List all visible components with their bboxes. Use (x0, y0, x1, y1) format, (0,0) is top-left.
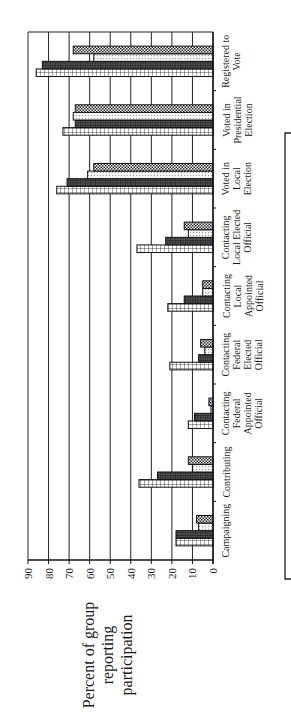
axis-title-line: participation (118, 615, 136, 696)
tick-label: 0 (207, 568, 219, 574)
bar-light-grid (137, 245, 213, 253)
bar-checker (201, 339, 213, 347)
tick-label: 20 (166, 568, 178, 580)
rotated-bar-chart: 0102030405060708090 CampaigningContribut… (0, 0, 291, 716)
category-label: Registered to (221, 35, 232, 88)
value-axis-title: Percent of groupreportingparticipation (80, 602, 136, 709)
bar-dotted (73, 112, 213, 120)
category-label: Campaigning (221, 504, 232, 558)
tick-label: 40 (125, 568, 137, 580)
legend-box (285, 133, 291, 579)
category-label: Appointed (243, 275, 254, 317)
bar-checker (73, 46, 213, 54)
category-label: Voted in (221, 162, 232, 195)
tick-label: 30 (145, 568, 157, 580)
bar-light-grid (170, 362, 213, 370)
bar-light-grid (63, 128, 213, 136)
category-label: Official (254, 398, 265, 429)
tick-label: 60 (84, 568, 96, 580)
bar-series (36, 46, 213, 546)
tick-label: 80 (43, 568, 55, 580)
category-label: Election (243, 162, 254, 195)
category-label: Contacting (221, 391, 232, 435)
tick-label: 90 (22, 568, 34, 580)
category-label: Official (254, 280, 265, 311)
bar-checker (197, 515, 213, 523)
value-tick-labels: 0102030405060708090 (22, 568, 219, 580)
bar-dark-grid (42, 61, 213, 69)
category-label: Election (243, 103, 254, 136)
bar-checker (75, 105, 213, 113)
category-label: Vote (232, 52, 243, 71)
bar-light-grid (168, 304, 213, 312)
bar-light-grid (188, 421, 213, 429)
axis-title-line: Percent of group (80, 602, 98, 709)
tick-label: 50 (104, 568, 116, 580)
bar-dark-grid (75, 120, 213, 128)
bar-checker (94, 163, 213, 171)
category-label: Presidential (232, 96, 243, 143)
bar-dark-grid (195, 413, 214, 421)
bar-dotted (94, 54, 213, 62)
chart-canvas: 0102030405060708090 CampaigningContribut… (0, 0, 291, 716)
category-label: Appointed (243, 392, 254, 434)
category-label: Federal (232, 339, 243, 369)
legend-frame (285, 133, 291, 579)
category-label: Contacting (221, 215, 232, 259)
bar-checker (203, 281, 213, 289)
category-label: Elected (243, 340, 254, 370)
bar-dotted (88, 171, 213, 179)
bar-checker (184, 222, 213, 230)
bar-dark-grid (176, 531, 213, 539)
bar-checker (188, 457, 213, 465)
bar-light-grid (139, 480, 213, 488)
category-label: Contacting (221, 333, 232, 377)
bar-dotted (203, 288, 213, 296)
category-label: Official (243, 222, 254, 253)
bar-light-grid (57, 186, 213, 194)
axis-title-line: reporting (99, 626, 117, 685)
category-label: Local Elected (232, 210, 243, 265)
bar-light-grid (176, 538, 213, 546)
bar-dotted (205, 347, 213, 355)
category-label: Official (254, 339, 265, 370)
bar-dark-grid (158, 472, 214, 480)
bar-dark-grid (67, 179, 213, 187)
bar-dotted (192, 464, 213, 472)
category-label: Voted in (221, 103, 232, 136)
category-label: Local (232, 167, 243, 190)
tick-label: 10 (186, 568, 198, 580)
bar-dark-grid (166, 237, 213, 245)
category-label: Local (232, 284, 243, 307)
category-label: Contributing (221, 446, 232, 497)
bar-dotted (188, 230, 213, 238)
category-labels: CampaigningContributingContactingFederal… (221, 35, 265, 558)
bar-light-grid (36, 69, 213, 77)
category-label: Federal (232, 398, 243, 428)
bar-dark-grid (184, 296, 213, 304)
tick-label: 70 (63, 568, 75, 580)
category-label: Contacting (221, 274, 232, 318)
bar-dotted (199, 523, 213, 531)
bar-dark-grid (199, 355, 213, 363)
